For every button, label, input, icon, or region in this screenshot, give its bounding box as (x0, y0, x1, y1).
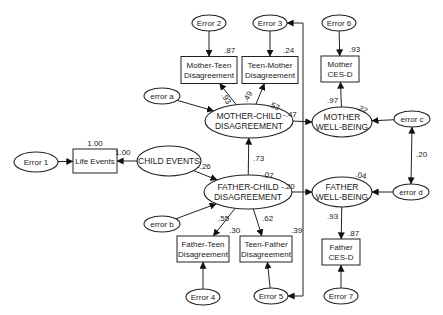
node-label: Error 7 (329, 292, 354, 301)
path-coefficient: -.26 (197, 162, 211, 171)
node-label: CHILD EVENTS (138, 156, 200, 166)
node-label: error b (150, 220, 174, 229)
node-mother-wb: MOTHERWELL-BEING.22 (312, 103, 372, 137)
node-father-child: FATHER-CHILDDISAGREEMENT.07 (204, 170, 292, 209)
path-coefficient: .20 (416, 150, 428, 159)
node-label: Error 6 (327, 19, 352, 28)
path-error_a-to-mother_child (177, 100, 214, 111)
node-label: Father (329, 243, 352, 252)
node-error5: Error 5 (254, 288, 288, 304)
path-error_b-to-father_child (176, 204, 217, 219)
r-squared-value: .30 (229, 226, 241, 235)
node-label: Disagreement (184, 71, 235, 80)
node-label: error a (150, 92, 174, 101)
node-label: error c (400, 115, 423, 124)
node-label: FATHER (326, 182, 359, 192)
node-label: Error 1 (24, 158, 49, 167)
r-squared-value: .87 (348, 229, 360, 238)
node-life-events: Life Events1.00 (73, 139, 117, 173)
node-label: Disagreement (245, 71, 296, 80)
path-coefficient: .93 (327, 212, 339, 221)
node-label: FATHER-CHILD (217, 182, 278, 192)
node-label: Disagreement (178, 250, 229, 259)
path-error_c-to-mother_wb (372, 120, 394, 121)
path-child_events-to-father_child (194, 171, 218, 180)
node-label: MOTHER (324, 112, 361, 122)
node-label: CES-D (329, 253, 354, 262)
node-label: DISAGREEMENT (214, 192, 282, 202)
path-coefficient: 1.00 (115, 148, 131, 157)
node-father-wb: FATHERWELL-BEING.04 (312, 170, 372, 207)
path-father_wb-to-father_cesd (341, 207, 342, 239)
node-error2: Error 2 (192, 15, 226, 31)
node-teen-father: Teen-FatherDisagreement.39 (240, 226, 303, 262)
node-error-c: error c (394, 111, 430, 127)
node-label: error d (399, 188, 423, 197)
path-mother_wb-to-mother_cesd (340, 82, 341, 107)
node-error-d: error d (393, 184, 429, 200)
node-label: Error 5 (259, 292, 284, 301)
node-label: Mother-Teen (187, 61, 232, 70)
node-father-teen: Father-TeenDisagreement.30 (177, 226, 241, 262)
path-coefficient: -.47 (283, 110, 297, 119)
node-label: Teen-Father (244, 240, 287, 249)
node-mother-cesd: MotherCES-D.93 (321, 45, 361, 82)
path-coefficient: .49 (241, 89, 255, 104)
path-father_child-to-teen_father (253, 209, 262, 236)
r-squared-value: 1.00 (87, 139, 103, 148)
node-label: WELL-BEING (316, 192, 368, 202)
r-squared-value: .39 (291, 226, 303, 235)
r-squared-value: .87 (224, 46, 236, 55)
path-coefficient: .55 (218, 214, 230, 223)
path-coefficient: .62 (262, 214, 274, 223)
node-label: Error 4 (191, 293, 216, 302)
sem-diagram: Error 1Life Events1.00CHILD EVENTSerror … (0, 0, 443, 315)
path-coefficient: -.20 (281, 182, 295, 191)
node-label: Disagreement (241, 250, 292, 259)
r-squared-value: .24 (283, 46, 295, 55)
node-label: Life Events (75, 157, 115, 166)
path-error6-to-mother_cesd (339, 31, 340, 56)
node-label: Teen-Mother (248, 61, 293, 70)
node-error-b: error b (144, 216, 180, 232)
path-error5-to-teen_father (267, 262, 270, 288)
node-error1: Error 1 (14, 152, 58, 172)
path-coefficient: .97 (327, 96, 339, 105)
node-label: WELL-BEING (316, 122, 368, 132)
node-label: DISAGREEMENT (215, 121, 283, 131)
node-label: Father-Teen (181, 240, 224, 249)
node-label: Error 3 (258, 19, 283, 28)
covariance-error-c-error-d (411, 127, 412, 184)
path-mother_child-to-teen_mother (256, 84, 265, 105)
nodes: Error 1Life Events1.00CHILD EVENTSerror … (14, 15, 430, 305)
node-error3: Error 3 (253, 15, 287, 31)
path-coefficient: .73 (253, 154, 265, 163)
node-error4: Error 4 (186, 289, 220, 305)
node-child-events: CHILD EVENTS (137, 146, 201, 176)
path-father_child-to-mother_child (248, 138, 249, 175)
path-coefficient: .93 (219, 92, 233, 107)
node-label: MOTHER-CHILD (216, 111, 281, 121)
node-label: Error 2 (197, 19, 222, 28)
r-squared-value: .93 (349, 45, 361, 54)
node-mother-child: MOTHER-CHILDDISAGREEMENT.53 (205, 100, 293, 138)
node-error7: Error 7 (324, 288, 358, 304)
node-error6: Error 6 (322, 15, 356, 31)
node-label: CES-D (328, 70, 353, 79)
node-error-a: error a (144, 88, 180, 104)
node-label: Mother (328, 60, 353, 69)
